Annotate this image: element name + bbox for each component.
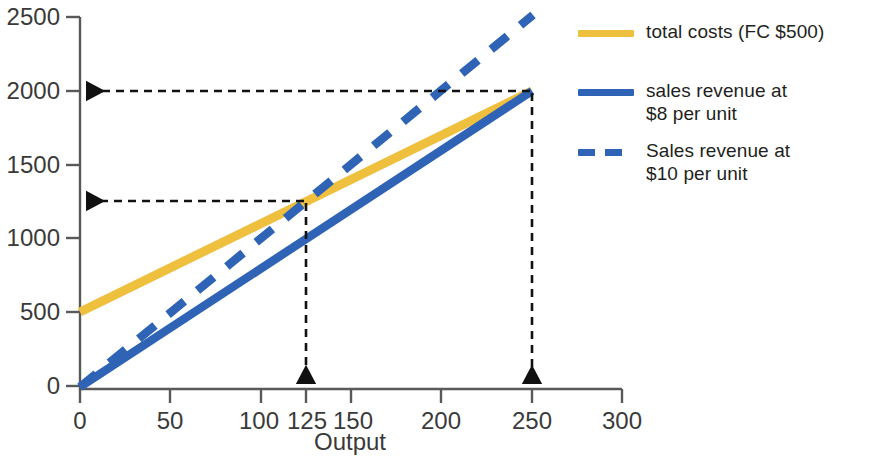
legend-item-sales-revenue-10: Sales revenue at $10 per unit	[578, 139, 790, 185]
y-tick-label-1000: 1000	[0, 226, 60, 250]
legend-label-total-costs: total costs (FC $500)	[646, 20, 824, 43]
y-tick-label-2000: 2000	[0, 79, 60, 103]
legend-label-sales-revenue-8: sales revenue at $8 per unit	[646, 79, 787, 125]
x-axis-title-text: Output	[314, 428, 386, 456]
legend-item-total-costs: total costs (FC $500)	[578, 20, 824, 43]
legend-label-sales-revenue-10: Sales revenue at $10 per unit	[646, 139, 790, 185]
y-tick-label-1500: 1500	[0, 153, 60, 177]
y-tick-label-0: 0	[0, 374, 60, 398]
legend-item-sales-revenue-8: sales revenue at $8 per unit	[578, 79, 787, 125]
y-tick-label-2500: 2500	[0, 5, 60, 29]
y-tick-label-500: 500	[0, 300, 60, 324]
legend-swatch-total-costs	[578, 30, 634, 37]
legend-swatch-sales-revenue-8	[578, 89, 634, 96]
break-even-chart: 2500 2000 1500 1000 500 0 0 50 100 125 1…	[0, 0, 871, 461]
x-axis-title: Output	[0, 428, 700, 456]
x-axis-ticks	[80, 389, 622, 403]
legend-swatch-sales-revenue-10	[578, 149, 634, 156]
y-axis-ticks	[66, 17, 80, 386]
chart-legend: total costs (FC $500) sales revenue at $…	[578, 0, 871, 200]
